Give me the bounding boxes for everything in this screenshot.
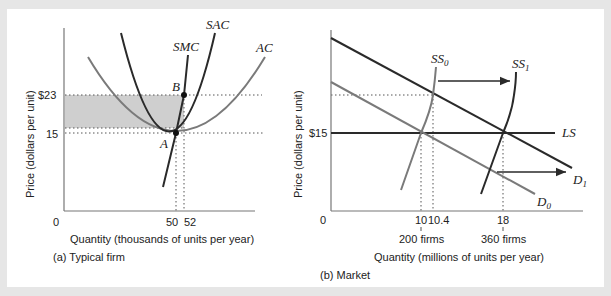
ytick-b-15: $15 [309, 127, 327, 139]
ytick-23: $23 [38, 89, 56, 101]
label-d0: D0 [536, 194, 551, 211]
caption-b: (b) Market [320, 269, 370, 281]
label-b: B [172, 79, 180, 94]
label-a: A [159, 136, 168, 151]
point-b [181, 92, 187, 98]
label-ac: AC [255, 40, 273, 55]
caption-a: (a) Typical firm [53, 251, 125, 263]
ytick-15: 15 [46, 128, 58, 140]
xtick-b-10-4: 10.4 [428, 214, 449, 226]
x-axis-label-a: Quantity (thousands of units per year) [70, 233, 254, 245]
label-ls: LS [561, 125, 576, 140]
panel-b-market: SS0 SS1 LS D1 D0 $15 0 10 10.4 18 200 fi… [292, 30, 587, 281]
label-smc: SMC [173, 39, 199, 54]
y-axis-label-b: Price (dollars per unit) [292, 90, 304, 198]
panel-a-typical-firm: B A SMC SAC AC $23 15 0 50 52 Quantity (… [24, 17, 273, 263]
y-axis-label-a: Price (dollars per unit) [24, 90, 36, 198]
note-200-firms: 200 firms [399, 233, 445, 245]
x-axis-label-b: Quantity (millions of units per year) [374, 251, 544, 263]
point-a [173, 130, 179, 136]
label-ss1: SS1 [512, 56, 530, 73]
profit-shaded-area [65, 95, 184, 128]
xtick-b-18: 18 [497, 214, 509, 226]
label-sac: SAC [206, 17, 229, 32]
xtick-52: 52 [184, 216, 196, 228]
xtick-b-0: 0 [320, 214, 326, 226]
xtick-50: 50 [166, 216, 178, 228]
chart-svg: B A SMC SAC AC $23 15 0 50 52 Quantity (… [0, 0, 611, 296]
label-d1: D1 [572, 172, 587, 189]
xtick-0: 0 [53, 216, 59, 228]
label-ss0: SS0 [431, 51, 449, 68]
note-360-firms: 360 firms [481, 233, 527, 245]
xtick-b-10: 10 [415, 214, 427, 226]
